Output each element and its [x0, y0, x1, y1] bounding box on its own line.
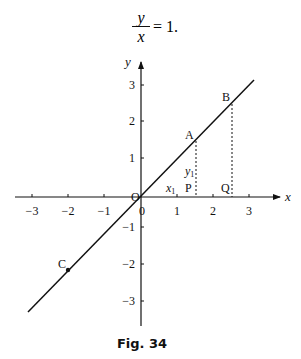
svg-text:0: 0 [139, 204, 145, 218]
svg-text:−1: −1 [98, 204, 111, 218]
x-tick-labels: −3 −2 −1 0 1 2 3 [26, 204, 252, 218]
x-axis-label: x [284, 189, 291, 204]
svg-text:1: 1 [129, 151, 135, 165]
figure-caption: Fig. 34 [0, 336, 284, 351]
y-axis-label: y [123, 54, 131, 69]
svg-text:−2: −2 [122, 257, 135, 271]
point-C-marker [66, 268, 70, 272]
x1-annotation: x1 [165, 181, 175, 196]
svg-text:−1: −1 [122, 220, 135, 234]
point-label-Q: Q [221, 181, 230, 195]
point-label-C: C [58, 257, 66, 271]
svg-text:3: 3 [129, 78, 135, 92]
point-label-P: P [185, 181, 192, 195]
svg-text:2: 2 [210, 204, 216, 218]
point-label-B: B [222, 90, 230, 104]
point-label-A: A [185, 128, 194, 142]
svg-text:1: 1 [174, 204, 180, 218]
svg-text:−3: −3 [26, 204, 39, 218]
svg-text:−2: −2 [62, 204, 75, 218]
svg-text:−3: −3 [122, 294, 135, 308]
y1-annotation: y1 [184, 164, 194, 179]
svg-text:2: 2 [129, 114, 135, 128]
coordinate-plot: x y −3 −2 −1 0 1 2 3 3 2 1 −1 −2 −3 O [0, 0, 301, 359]
svg-text:3: 3 [246, 204, 252, 218]
